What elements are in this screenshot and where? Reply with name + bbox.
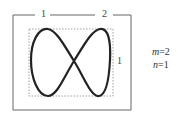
lissajous-curve	[31, 29, 110, 96]
param-n-value: =1	[158, 59, 169, 70]
bounding-rect	[29, 29, 113, 96]
top-label-2: 2	[101, 9, 108, 19]
side-label: 1	[116, 56, 123, 66]
param-m: m=2	[152, 47, 170, 57]
top-label-1: 1	[40, 9, 47, 19]
param-n: n=1	[153, 60, 169, 70]
lissajous-diagram	[0, 0, 182, 116]
param-m-value: =2	[159, 46, 170, 57]
